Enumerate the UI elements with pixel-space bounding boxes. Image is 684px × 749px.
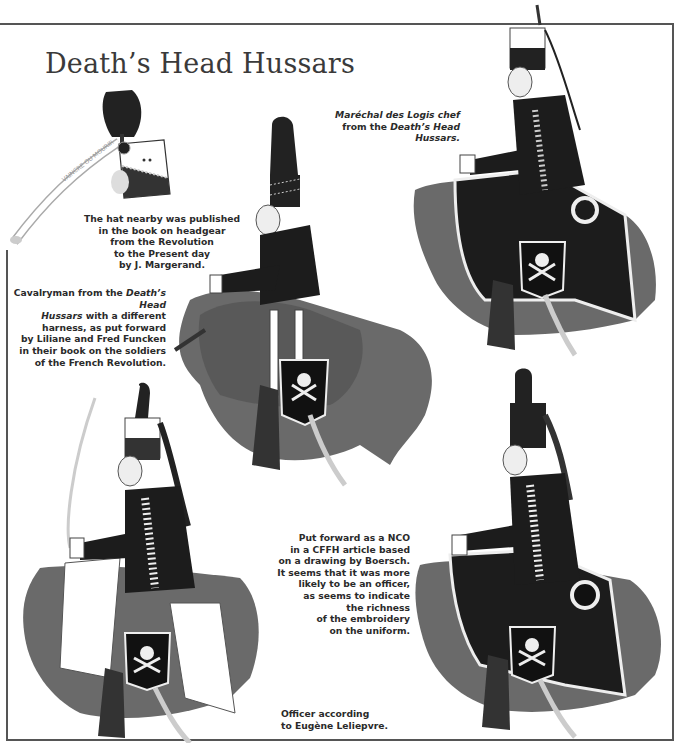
caption-line: of the French Revolution.: [4, 357, 166, 369]
caption-line: It seems that it was more: [268, 567, 410, 579]
caption-line: of the embroidery: [268, 613, 410, 625]
officer-leliepvre-figure: [10, 378, 280, 743]
caption-line: Cavalryman from the Death’s Head: [4, 287, 166, 310]
caption-line: the richness: [268, 602, 410, 614]
caption-line: as seems to indicate: [268, 590, 410, 602]
caption-line: in their book on the soldiers: [4, 345, 166, 357]
nco-boersch-figure: [400, 365, 672, 740]
caption-line: by Liliane and Fred Funcken: [4, 333, 166, 345]
caption-text: Cavalryman from the: [14, 287, 126, 298]
caption-line: on the uniform.: [268, 625, 410, 637]
caption-line: in a CFFH article based: [268, 544, 410, 556]
marechal-des-logis-figure: [395, 0, 675, 360]
caption-line: likely to be an officer,: [268, 578, 410, 590]
cavalryman-caption: Cavalryman from the Death’s Head Hussars…: [4, 287, 166, 368]
nco-caption: Put forward as a NCO in a CFFH article b…: [268, 532, 410, 636]
hat-ribbon-text: VAINCRE OU MOURIR: [60, 138, 114, 183]
caption-line: Hussars with a different: [4, 310, 166, 322]
caption-text: with a different: [83, 310, 166, 321]
page-title: Death’s Head Hussars: [45, 48, 355, 79]
caption-line: Put forward as a NCO: [268, 532, 410, 544]
caption-italic: Hussars: [41, 310, 82, 321]
caption-line: harness, as put forward: [4, 322, 166, 334]
page: Death’s Head Hussars VAINCRE OU MOURIR T…: [0, 0, 684, 749]
caption-line: on a drawing by Boersch.: [268, 555, 410, 567]
